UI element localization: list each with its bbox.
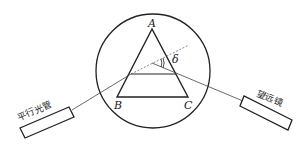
vertex-label-b: B [113,99,122,112]
vertex-label-c: C [184,99,193,112]
deviation-angle-arc [163,58,164,68]
incident-ray [72,74,131,110]
vertex-label-a: A [147,17,156,30]
incident-extension-dashed [131,45,189,74]
emergent-ray [152,63,243,101]
deviation-angle-arc-inner [161,59,162,67]
deviation-label: δ [172,53,179,66]
prism-spectrometer-diagram: A B C δ 平行光管 望远镜 [0,0,305,149]
